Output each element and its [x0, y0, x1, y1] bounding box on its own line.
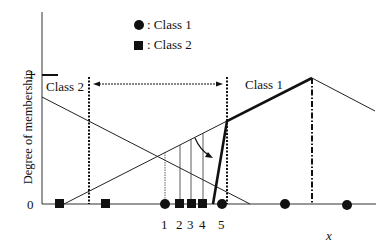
y-tick-label-0: 0: [27, 198, 34, 212]
point-number-5: 5: [218, 218, 225, 232]
legend-label-class1: : Class 1: [147, 18, 192, 32]
y-tick-label-1: 1: [28, 68, 35, 82]
class1-label: Class 1: [245, 78, 283, 92]
legend-square-icon: [134, 41, 143, 50]
point-number-3: 3: [187, 218, 194, 232]
class1-point: [342, 200, 352, 210]
point-number-2: 2: [176, 218, 183, 232]
class2-point-2: [175, 199, 184, 208]
legend-circle-icon: [134, 20, 144, 30]
class2-label: Class 2: [46, 80, 84, 94]
class2-point-3: [187, 199, 196, 208]
class2-point: [55, 199, 64, 208]
range-arrow-right-head: [216, 82, 223, 87]
point-number-4: 4: [199, 218, 206, 232]
membership-diagram: [0, 0, 385, 250]
class2-point: [101, 199, 110, 208]
legend-label-class2: : Class 2: [147, 38, 192, 52]
point-number-1: 1: [161, 218, 168, 232]
range-arrow-left-head: [93, 82, 100, 87]
class1-point-1: [160, 199, 170, 209]
class2-point-4: [198, 199, 207, 208]
x-axis-label: x: [326, 229, 332, 243]
class1-point-5: [217, 199, 227, 209]
class1-point: [280, 199, 290, 209]
class1-descending-line: [312, 78, 375, 111]
class2-membership-line: [42, 97, 250, 204]
